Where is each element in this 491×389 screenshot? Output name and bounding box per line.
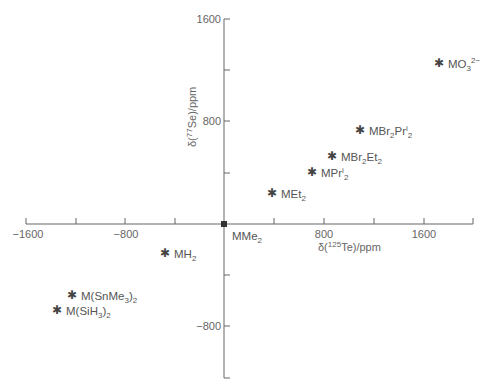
star-marker-icon: ✱ (434, 56, 444, 70)
star-marker-icon: ✱ (307, 165, 317, 179)
x-tick-label: −800 (114, 228, 139, 240)
data-point-mpr2: ✱ MPri2 (307, 165, 349, 182)
star-marker-icon: ✱ (267, 186, 277, 200)
data-point-msnme3: ✱ M(SnMe3)2 (67, 288, 138, 305)
data-point-mbr2et2: ✱ MBr2Et2 (327, 149, 382, 166)
y-tick-label: 800 (203, 115, 221, 127)
x-tick-label: 800 (315, 228, 333, 240)
point-label: MEt2 (281, 188, 306, 203)
data-point-mo3: ✱ MO32− (434, 56, 480, 73)
y-axis-label: δ(77Se)/ppm (185, 87, 198, 147)
star-marker-icon: ✱ (355, 123, 365, 137)
point-label: MMe2 (232, 230, 263, 245)
origin-marker (221, 221, 227, 227)
point-label: MO32− (448, 56, 480, 73)
point-label: M(SnMe3)2 (81, 290, 138, 305)
star-marker-icon: ✱ (67, 288, 77, 302)
data-point-msih3: ✱ M(SiH3)2 (52, 303, 111, 320)
data-point-mh2: ✱ MH2 (160, 246, 197, 263)
x-tick-label: −1600 (13, 228, 44, 240)
star-marker-icon: ✱ (327, 149, 337, 163)
x-tick-label: 1600 (412, 228, 436, 240)
point-label: MPri2 (321, 166, 349, 182)
x-axis-label: δ(125Te)/ppm (318, 240, 381, 253)
y-tick-label: −800 (196, 320, 221, 332)
data-point-mbr2pr2: ✱ MBr2Pri2 (355, 123, 413, 140)
star-marker-icon: ✱ (160, 246, 170, 260)
chart-canvas: −1600 −800 800 1600 1600 800 −800 δ(125T… (0, 0, 491, 389)
point-label: MBr2Et2 (341, 151, 382, 166)
y-axis (224, 19, 230, 378)
data-point-mme2: MMe2 (232, 230, 263, 245)
point-label: MBr2Pri2 (369, 124, 413, 140)
y-tick-label: 1600 (197, 13, 221, 25)
point-label: MH2 (174, 248, 197, 263)
x-axis (26, 218, 473, 224)
point-label: M(SiH3)2 (66, 305, 111, 320)
star-marker-icon: ✱ (52, 303, 62, 317)
data-point-met2: ✱ MEt2 (267, 186, 306, 203)
